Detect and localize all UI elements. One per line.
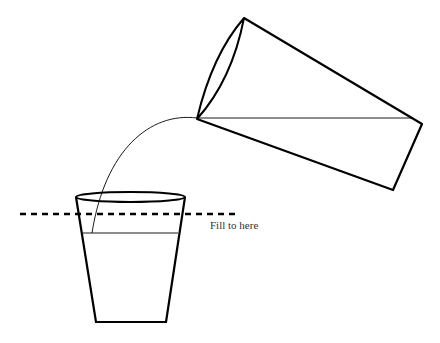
pouring-glass-mouth	[197, 18, 244, 119]
pouring-glass	[197, 18, 422, 190]
cup-rim	[76, 192, 185, 202]
receiving-cup	[76, 192, 185, 322]
cup-body	[76, 197, 185, 322]
pouring-glass-body	[197, 18, 422, 190]
pouring-diagram	[0, 0, 440, 343]
fill-to-here-label: Fill to here	[210, 219, 258, 231]
